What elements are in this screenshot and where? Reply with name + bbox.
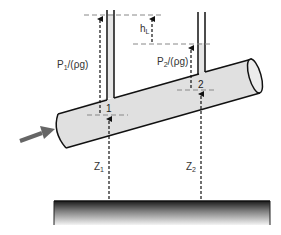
flow-arrow-icon	[20, 126, 55, 141]
piezometer-tube-1-fluid	[108, 14, 114, 98]
piezometer-tube-2-fluid	[199, 43, 205, 73]
point-2-label: 2	[198, 79, 204, 90]
pressure-head-1-label: P1/(ρg)	[57, 59, 88, 71]
pressure-head-2-label: P2/(ρg)	[157, 56, 188, 68]
ground	[54, 201, 270, 225]
pipe	[56, 58, 265, 148]
head-loss-label: hL	[140, 23, 150, 35]
bernoulli-diagram: P1/(ρg) P2/(ρg) hL 1 2 Z1 Z2	[0, 0, 281, 235]
elevation-2-label: Z2	[186, 161, 196, 173]
point-1-label: 1	[106, 103, 112, 114]
elevation-1-label: Z1	[94, 161, 104, 173]
